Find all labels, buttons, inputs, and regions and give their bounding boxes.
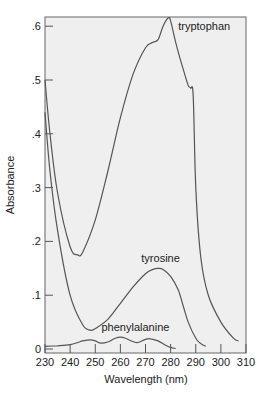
x-tick-label: 230 xyxy=(36,356,54,368)
absorbance-chart: 0.1.2.3.4.5.6 23024025026027028029030031… xyxy=(0,0,263,395)
y-tick-label: .6 xyxy=(32,20,41,32)
y-axis-title: Absorbance xyxy=(4,156,16,215)
x-tick-label: 270 xyxy=(136,356,154,368)
plot-area xyxy=(45,17,246,353)
x-tick-label: 280 xyxy=(161,356,179,368)
x-tick-label: 290 xyxy=(187,356,205,368)
x-tick-label: 250 xyxy=(86,356,104,368)
label-tryptophan: tryptophan xyxy=(178,20,230,32)
y-tick-label: 0 xyxy=(35,343,41,355)
y-tick-label: .2 xyxy=(32,235,41,247)
y-tick-label: .1 xyxy=(32,289,41,301)
y-tick-label: .5 xyxy=(32,74,41,86)
x-tick-label: 240 xyxy=(61,356,79,368)
x-tick-label: 300 xyxy=(212,356,230,368)
label-tyrosine: tyrosine xyxy=(141,252,180,264)
y-tick-label: .4 xyxy=(32,128,41,140)
x-tick-label: 260 xyxy=(111,356,129,368)
label-phenylalanine: phenylalanine xyxy=(102,321,170,333)
x-axis-title: Wavelength (nm) xyxy=(104,373,187,385)
y-tick-label: .3 xyxy=(32,182,41,194)
x-tick-label: 310 xyxy=(237,356,255,368)
